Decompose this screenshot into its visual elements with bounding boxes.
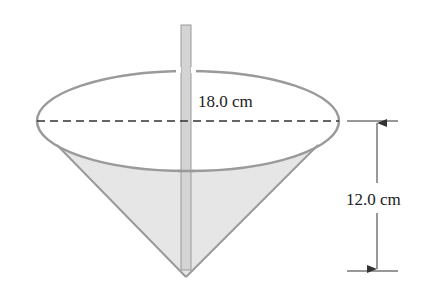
rod-gap-cover-left — [176, 67, 181, 73]
rod-gap-cover-right — [191, 67, 196, 73]
diameter-label: 18.0 cm — [198, 92, 253, 111]
vertical-rod — [181, 25, 191, 270]
height-label: 12.0 cm — [346, 190, 401, 209]
cone-diagram: 18.0 cm 12.0 cm — [0, 0, 434, 297]
